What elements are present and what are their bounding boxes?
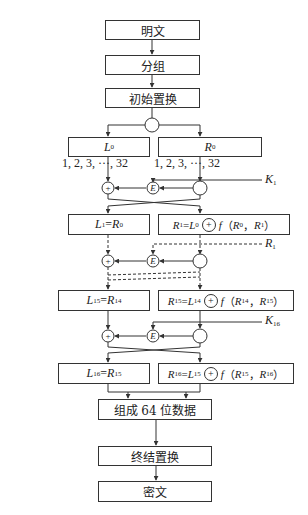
r15-p2: R bbox=[260, 295, 267, 307]
combine-64bit-label: 组成 64 位数据 bbox=[114, 401, 197, 418]
l16-lhs-sub: 16 bbox=[93, 370, 100, 378]
svg-text:E: E bbox=[149, 331, 156, 341]
r16-a-sub: 15 bbox=[194, 370, 201, 378]
flow-connectors: + E + E + E bbox=[0, 0, 308, 515]
r1-lhs: R bbox=[173, 219, 180, 231]
r16-p1: R bbox=[235, 368, 242, 380]
l0-symbol: L bbox=[104, 140, 111, 155]
xor-icon: + bbox=[204, 367, 218, 381]
plaintext-box: 明文 bbox=[105, 20, 200, 40]
l15-box: L15=R14 bbox=[58, 290, 150, 311]
combine-64bit-box: 组成 64 位数据 bbox=[98, 399, 212, 420]
initial-permutation-box: 初始置换 bbox=[105, 88, 200, 108]
l0-bit-indices: 1, 2, 3, ···, 32 bbox=[62, 156, 128, 171]
l1-rhs: R bbox=[112, 217, 119, 232]
r15-box: R15=L14+f（R14，R15） bbox=[158, 290, 294, 311]
r1-p2: R bbox=[254, 219, 261, 231]
ciphertext-box: 密文 bbox=[98, 481, 212, 502]
svg-text:+: + bbox=[105, 256, 110, 266]
r16-open: （ bbox=[224, 366, 235, 382]
xor-icon: + bbox=[202, 218, 216, 232]
k16-subscript: 16 bbox=[273, 320, 280, 328]
r16-lhs-sub: 16 bbox=[174, 370, 181, 378]
plaintext-label: 明文 bbox=[141, 22, 165, 39]
l16-box: L16=R15 bbox=[58, 363, 150, 384]
grouping-box: 分组 bbox=[105, 55, 200, 75]
r16-p2-sub: 16 bbox=[266, 370, 273, 378]
l1-box: L1=R0 bbox=[68, 214, 150, 235]
l15-lhs-sub: 15 bbox=[93, 297, 100, 305]
r15-p1: R bbox=[235, 295, 242, 307]
r16-p1-sub: 15 bbox=[242, 370, 249, 378]
r16-comma: ， bbox=[249, 366, 260, 382]
k1-symbol: K bbox=[265, 172, 273, 186]
r1-box: R1=L0+f（R0，R1） bbox=[158, 214, 290, 235]
xor-glyph: + bbox=[105, 183, 110, 193]
r1-a-sub: 0 bbox=[195, 221, 199, 229]
r1-close: ） bbox=[264, 217, 275, 233]
r0-symbol: R bbox=[205, 140, 212, 155]
r1-key-subscript: 1 bbox=[272, 243, 276, 251]
r1-p1: R bbox=[233, 219, 240, 231]
k16-symbol: K bbox=[265, 313, 273, 327]
r15-p2-sub: 15 bbox=[266, 297, 273, 305]
key-r1-label: R1 bbox=[265, 236, 276, 251]
l0-subscript: 0 bbox=[111, 143, 115, 151]
l1-rhs-sub: 0 bbox=[119, 221, 123, 229]
r15-comma: ， bbox=[249, 293, 260, 309]
grouping-label: 分组 bbox=[141, 57, 165, 74]
initial-permutation-label: 初始置换 bbox=[129, 90, 177, 107]
r15-p1-sub: 14 bbox=[242, 297, 249, 305]
key-k1-label: K1 bbox=[265, 172, 277, 187]
l15-rhs-sub: 14 bbox=[114, 297, 121, 305]
l16-rhs-sub: 15 bbox=[114, 370, 121, 378]
r1-comma: ， bbox=[243, 217, 254, 233]
l16-rhs: R bbox=[107, 366, 114, 381]
final-permutation-box: 终结置换 bbox=[98, 446, 212, 466]
l16-lhs: L bbox=[87, 366, 94, 381]
r15-lhs-sub: 15 bbox=[174, 297, 181, 305]
r16-p2: R bbox=[260, 368, 267, 380]
expand-glyph: E bbox=[149, 183, 156, 193]
ciphertext-label: 密文 bbox=[143, 483, 167, 500]
l15-rhs: R bbox=[107, 293, 114, 308]
key-k16-label: K16 bbox=[265, 313, 280, 328]
r15-close: ） bbox=[273, 293, 284, 309]
r15-lhs: R bbox=[168, 295, 175, 307]
r0-box: R0 bbox=[158, 137, 262, 157]
r15-open: （ bbox=[224, 293, 235, 309]
l1-lhs: L bbox=[95, 217, 102, 232]
r15-a-sub: 14 bbox=[194, 297, 201, 305]
svg-text:+: + bbox=[105, 331, 110, 341]
xor-icon: + bbox=[204, 294, 218, 308]
r0-bit-indices: 1, 2, 3, ···, 32 bbox=[154, 156, 220, 171]
k1-subscript: 1 bbox=[273, 179, 277, 187]
l0-box: L0 bbox=[68, 137, 150, 157]
r16-box: R16=L15+f（R15，R16） bbox=[158, 363, 294, 384]
r16-lhs: R bbox=[168, 368, 175, 380]
r1-open: （ bbox=[222, 217, 233, 233]
r16-close: ） bbox=[273, 366, 284, 382]
svg-text:E: E bbox=[149, 256, 156, 266]
l15-lhs: L bbox=[87, 293, 94, 308]
r0-subscript: 0 bbox=[212, 143, 216, 151]
final-permutation-label: 终结置换 bbox=[131, 448, 179, 465]
